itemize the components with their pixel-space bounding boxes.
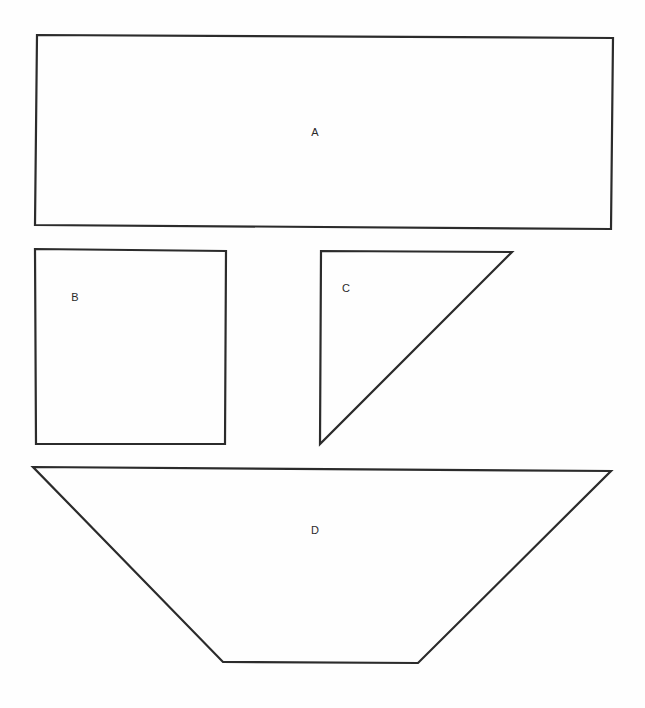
trapezoid-d-outline [33, 467, 611, 663]
triangle-c-outline [320, 251, 512, 444]
square-b-outline [35, 249, 226, 444]
shape-b-square: B [35, 249, 226, 444]
shape-c-triangle: C [320, 251, 512, 444]
shapes-diagram: A B C D [0, 0, 645, 708]
label-a: A [311, 126, 319, 138]
label-c: C [342, 282, 350, 294]
rectangle-a-outline [35, 35, 613, 229]
label-b: B [71, 291, 78, 303]
label-d: D [311, 524, 319, 536]
shape-a-rectangle: A [35, 35, 613, 229]
shape-d-trapezoid: D [33, 467, 611, 663]
